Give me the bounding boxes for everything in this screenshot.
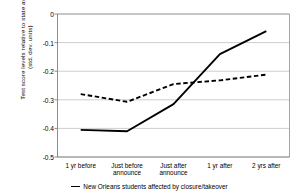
chart-legend: New Orleans students affected by closure… [0,183,299,191]
x-tick-label: Just after announce [159,162,187,177]
x-tick-label: Just before announce [111,162,143,177]
series-line-solid [81,31,267,131]
x-tick-label: 1 yr after [207,162,232,169]
series-line-dashed [81,75,267,102]
chart-figure: Test score levels relative to state avg … [0,0,299,196]
legend-label: New Orleans students affected by closure… [83,183,227,190]
legend-line-swatch [71,186,80,187]
x-tick-label: 1 yr before [65,162,96,169]
x-tick-label: 2 yrs after [252,162,280,169]
